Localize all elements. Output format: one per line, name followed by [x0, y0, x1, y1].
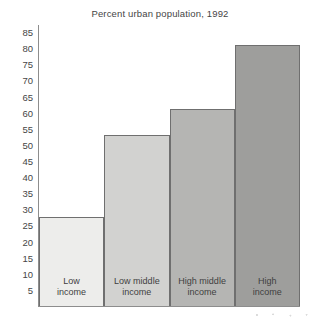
y-tick-label: 35 [22, 189, 33, 199]
y-tick-label: 30 [22, 205, 33, 215]
y-tick-label: 5 [28, 286, 33, 296]
bar-chart-figure: Percent urban population, 1992 858075706… [0, 0, 320, 325]
bar-column[interactable]: Low middleincome [104, 25, 169, 306]
scan-artifact [252, 312, 314, 318]
bar-column[interactable]: High middleincome [170, 25, 235, 306]
y-tick-label: 65 [22, 93, 33, 103]
y-tick-label: 45 [22, 157, 33, 167]
y-tick-label: 20 [22, 238, 33, 248]
y-tick-label: 85 [22, 28, 33, 38]
y-tick-label: 55 [22, 125, 33, 135]
bar-rect[interactable] [235, 45, 300, 306]
y-tick-label: 80 [22, 44, 33, 54]
y-axis: 858075706560555045403530252015105 [0, 25, 36, 307]
bar-rect[interactable] [104, 135, 169, 306]
bar-rect[interactable] [39, 217, 104, 306]
y-tick-label: 60 [22, 109, 33, 119]
bar-column[interactable]: Lowincome [39, 25, 104, 306]
chart-title: Percent urban population, 1992 [0, 8, 320, 19]
bars-layer: LowincomeLow middleincomeHigh middleinco… [39, 25, 300, 306]
y-tick-label: 10 [22, 270, 33, 280]
plot-area: LowincomeLow middleincomeHigh middleinco… [38, 25, 300, 307]
y-tick-label: 70 [22, 76, 33, 86]
y-tick-label: 15 [22, 254, 33, 264]
y-tick-label: 75 [22, 60, 33, 70]
bar-column[interactable]: Highincome [235, 25, 300, 306]
y-tick-label: 25 [22, 221, 33, 231]
y-tick-label: 50 [22, 141, 33, 151]
bar-rect[interactable] [170, 109, 235, 306]
y-tick-label: 40 [22, 173, 33, 183]
